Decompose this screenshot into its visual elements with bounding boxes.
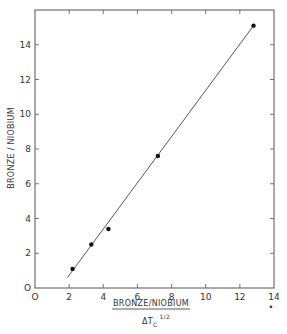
data-point: [251, 23, 255, 27]
data-point: [89, 242, 93, 246]
data-point: [106, 227, 110, 231]
x-tick-label: 12: [234, 292, 245, 302]
y-tick-label: 6: [25, 179, 31, 189]
x-tick-label: O: [31, 292, 38, 302]
x-tick-label: 4: [100, 292, 106, 302]
fit-line: [67, 26, 253, 278]
x-axis-title-denominator: ΔTC1/2: [142, 313, 170, 328]
plot-frame: [35, 10, 274, 288]
y-axis-title: BRONZE / NIOBIUM: [7, 107, 16, 189]
axis-ticks: [35, 10, 274, 288]
x-tick-label: 10: [200, 292, 212, 302]
scatter-chart: O2468101214 O2468101214 BRONZE / NIOBIUM…: [0, 0, 287, 334]
x-axis-title-numerator: BRONZE/NIOBIUM: [113, 299, 189, 308]
data-point: [70, 267, 74, 271]
y-tick-labels: O2468101214: [20, 40, 32, 293]
y-tick-label: 2: [25, 248, 31, 258]
y-tick-label: 10: [20, 109, 32, 119]
x-tick-label: 14: [268, 292, 280, 302]
plot-border: [35, 10, 274, 288]
x-tick-label: 2: [66, 292, 72, 302]
annotation-dot: •: [268, 302, 273, 312]
y-tick-label: 4: [25, 214, 31, 224]
data-point: [156, 154, 160, 158]
y-tick-label: O: [24, 283, 31, 293]
y-tick-label: 12: [20, 75, 31, 85]
y-tick-label: 8: [25, 144, 31, 154]
y-tick-label: 14: [20, 40, 32, 50]
